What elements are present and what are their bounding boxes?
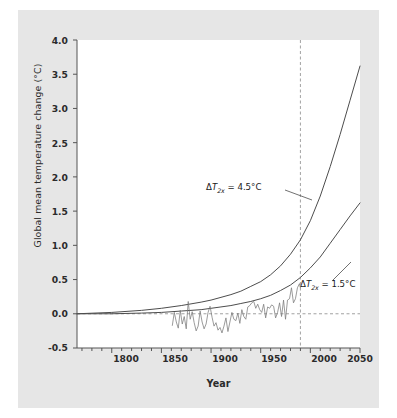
chart-svg (0, 0, 397, 418)
leader-line-low-sensitivity (332, 262, 351, 281)
leader-line-high-sensitivity (285, 190, 312, 200)
series-observed-temperature-record (172, 284, 300, 333)
data-series-layer (77, 66, 360, 333)
chart-vector-layer (0, 0, 397, 418)
annotation-leader-lines (285, 190, 351, 281)
series--t2x-4-5-c (77, 66, 360, 314)
axis-layer (73, 40, 360, 353)
figure-chart-global-mean-temperature: Global mean temperature change (°C) 4.0 … (0, 0, 397, 418)
series--t2x-1-5-c (77, 203, 360, 314)
reference-lines-layer (77, 40, 360, 348)
